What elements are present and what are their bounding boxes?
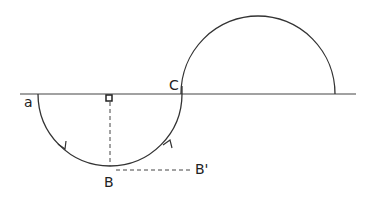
- label-b-prime: B': [195, 161, 208, 177]
- diagram-canvas: a B C B': [0, 0, 370, 201]
- right-angle-marker-icon: [106, 95, 112, 101]
- upper-semicircle-arc: [181, 16, 335, 94]
- label-a: a: [24, 94, 33, 110]
- label-b: B: [104, 174, 114, 190]
- label-c: C: [169, 77, 179, 93]
